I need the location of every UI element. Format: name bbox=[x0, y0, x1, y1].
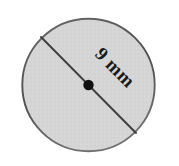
center-point-dot bbox=[83, 80, 93, 90]
circle-diagram-canvas: 9 mm bbox=[0, 0, 179, 166]
circle-diagram-figure: 9 mm bbox=[0, 0, 179, 166]
